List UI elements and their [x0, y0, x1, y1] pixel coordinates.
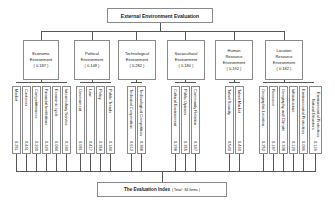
- connector: [16, 82, 67, 83]
- leaf-value: 0.540: [227, 141, 232, 151]
- connector: [46, 154, 47, 171]
- leaf-technological-competition: Technological Competition0.388: [137, 86, 146, 154]
- root-connector: [160, 23, 161, 31]
- category-weight: ( 0.180 ): [179, 63, 194, 69]
- leaf-value: 0.298: [173, 141, 178, 151]
- leaf-label: Infrastructure: [291, 89, 296, 113]
- connector: [293, 154, 294, 171]
- connector: [175, 154, 176, 171]
- category-weight: ( 0.187 ): [34, 63, 49, 69]
- leaf-natural-disasters: Environmental Protection Natural Disaste…: [309, 86, 322, 154]
- leaf-label: Intermediary Service: [64, 89, 69, 126]
- connector: [239, 154, 240, 171]
- leaf-label: Resource: [271, 89, 276, 106]
- leaf-value: 0.329: [44, 141, 49, 151]
- footer-label: The Evaluation Index: [124, 187, 170, 192]
- connector: [92, 31, 93, 40]
- leaf-label: Environmental Protection Natural Disaste…: [311, 89, 321, 139]
- leaf-label: Policy: [98, 89, 103, 100]
- connector: [16, 154, 17, 171]
- leaf-public-trends: Public Trends0.144: [106, 86, 115, 154]
- connector: [195, 154, 196, 171]
- connector: [110, 154, 111, 171]
- leaf-label: Market: [14, 89, 19, 101]
- leaf-value: 0.084: [54, 141, 59, 151]
- category-location: Location Resource Environment ( 0.182 ): [265, 40, 303, 80]
- leaf-financial-institutions: Financial Institutions0.329: [42, 86, 51, 154]
- category-weight: ( 0.192 ): [227, 66, 242, 72]
- connector: [136, 31, 137, 40]
- leaf-label: Customer: [24, 89, 29, 106]
- connector: [41, 31, 42, 40]
- connector: [229, 154, 230, 171]
- leaf-value: 0.251: [14, 141, 19, 151]
- leaf-label: Environmental Protection: [301, 89, 306, 134]
- connector: [263, 82, 314, 83]
- category-technological: Technological Environment ( 0.282 ): [118, 40, 156, 80]
- leaf-label: Competitiveness: [34, 89, 39, 119]
- connector: [131, 82, 142, 83]
- leaf-value: 0.200: [34, 141, 39, 151]
- connector: [131, 154, 132, 171]
- leaf-label: Public Opinion: [183, 89, 188, 115]
- leaf-public-opinion: Public Opinion0.355: [181, 86, 190, 154]
- connector: [283, 154, 284, 171]
- leaf-technical-cooperation: Technical Cooperation0.612: [127, 86, 136, 154]
- leaf-label: Talent Market: [237, 89, 242, 113]
- category-bus: [41, 31, 284, 32]
- leaf-label: Community Relation: [193, 89, 198, 125]
- leaf-value: 0.417: [88, 141, 93, 151]
- connector: [175, 82, 196, 83]
- leaf-label: Public Trends: [108, 89, 113, 113]
- connector: [263, 154, 264, 171]
- category-weight: ( 0.148 ): [85, 63, 100, 69]
- connector: [90, 154, 91, 171]
- connector: [100, 154, 101, 171]
- category-human-resource: Human Resource Environment ( 0.192 ): [215, 40, 253, 80]
- connector: [66, 154, 67, 171]
- leaf-customer: Customer0.441: [22, 86, 31, 154]
- connector: [56, 154, 57, 171]
- leaf-value: 0.129: [291, 141, 296, 151]
- leaf-label: Geographic Location: [261, 89, 266, 126]
- leaf-intermediary-service: Intermediary Service0.180: [62, 86, 71, 154]
- leaf-community-relation: Community Relation0.347: [191, 86, 200, 154]
- connector: [284, 31, 285, 40]
- leaf-label: Law: [88, 89, 93, 96]
- leaf-value: 0.308: [281, 141, 286, 151]
- leaf-label: Financial Institutions: [44, 89, 49, 125]
- leaf-economic-cycle: Economic cycle0.084: [52, 86, 61, 154]
- leaf-policy: Policy0.358: [96, 86, 105, 154]
- leaf-value: 0.358: [98, 141, 103, 151]
- leaf-geography-and-climate: Geography and Climate0.308: [279, 86, 288, 154]
- leaf-value: 0.388: [139, 141, 144, 151]
- connector: [315, 154, 316, 171]
- connector: [41, 80, 42, 82]
- connector: [229, 82, 240, 83]
- connector: [141, 154, 142, 171]
- connector: [80, 82, 111, 83]
- connector: [36, 154, 37, 171]
- footer-total: ( Total : 84 Items ): [172, 188, 200, 192]
- connector: [234, 31, 235, 40]
- connector: [303, 154, 304, 171]
- leaf-value: 0.187: [271, 141, 276, 151]
- connector: [92, 80, 93, 82]
- leaf-geographic-location: Geographic Location0.252: [259, 86, 268, 154]
- leaf-value: 0.347: [193, 141, 198, 151]
- leaf-environmental-protection: Environmental Protection0.086: [299, 86, 308, 154]
- leaf-label: Economic cycle: [54, 89, 59, 117]
- leaf-value: 0.441: [24, 141, 29, 151]
- leaf-value: 0.086: [301, 141, 306, 151]
- leaf-talent-market: Talent Market0.460: [235, 86, 244, 154]
- leaf-value: 0.460: [237, 141, 242, 151]
- leaf-talent-scarcity: Talent Scarcity0.540: [225, 86, 234, 154]
- connector: [273, 154, 274, 171]
- leaf-resource: Resource0.187: [269, 86, 278, 154]
- connector: [80, 154, 81, 171]
- category-sociocultural: Sociocultural Environment ( 0.180 ): [167, 40, 205, 80]
- leaf-label: Cultural Environment: [173, 89, 178, 126]
- leaf-label: Talent Scarcity: [227, 89, 232, 115]
- leaf-value: 0.252: [261, 141, 266, 151]
- connector: [185, 80, 186, 82]
